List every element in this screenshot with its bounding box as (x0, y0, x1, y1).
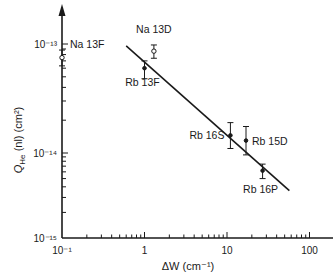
point-label: Na 13F (70, 38, 104, 50)
fit-line-path (126, 46, 289, 191)
x-tick-label: 100 (301, 245, 318, 256)
y-tick-label: 10⁻¹³ (34, 39, 57, 50)
point-label: Rb 13F (125, 76, 159, 88)
y-axis-label: QHe (nl) (cm²) (12, 107, 27, 173)
chart: 10⁻¹11010010⁻¹⁵10⁻¹⁴10⁻¹³ Na 13FNa 13DRb… (0, 0, 333, 279)
axis-labels: ΔW (cm⁻¹) QHe (nl) (cm²) (12, 107, 214, 272)
data-points: Na 13FNa 13DRb 13FRb 16SRb 15DRb 16P (59, 23, 288, 195)
point-label: Rb 16S (189, 129, 224, 141)
data-point: Na 13D (136, 23, 172, 58)
x-tick-label: 10⁻¹ (52, 245, 72, 256)
filled-circle-marker-icon (143, 66, 147, 70)
open-circle-marker-icon (60, 55, 64, 59)
x-tick-label: 1 (142, 245, 148, 256)
point-label: Rb 15D (252, 135, 288, 147)
filled-circle-marker-icon (229, 134, 233, 138)
filled-circle-marker-icon (261, 169, 265, 173)
data-point: Rb 13F (125, 61, 159, 88)
y-tick-label: 10⁻¹⁴ (33, 148, 57, 159)
point-label: Na 13D (136, 23, 172, 35)
fit-line (126, 46, 289, 191)
data-point: Rb 16P (243, 164, 278, 195)
filled-circle-marker-icon (244, 139, 248, 143)
data-point: Na 13F (59, 38, 104, 66)
y-tick-label: 10⁻¹⁵ (33, 233, 57, 244)
y-axis-arrow-icon (59, 4, 66, 16)
point-label: Rb 16P (243, 183, 278, 195)
x-tick-label: 10 (221, 245, 233, 256)
data-point: Rb 15D (243, 127, 288, 155)
x-axis-label: ΔW (cm⁻¹) (162, 260, 214, 272)
open-circle-marker-icon (152, 49, 156, 53)
